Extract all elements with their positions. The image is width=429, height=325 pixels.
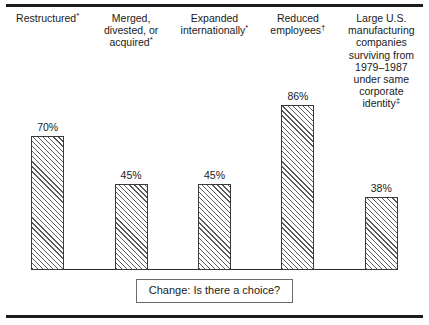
bar-group-large-us-manufacturing: 38% <box>365 182 398 270</box>
bottom-rule <box>6 315 423 318</box>
plot-area: 70% 45% 45% 86% 38% <box>6 20 423 270</box>
top-rule <box>6 4 423 7</box>
bar-restructured <box>31 136 64 270</box>
bar-group-expanded-internationally: 45% <box>198 169 231 270</box>
caption-row: Change: Is there a choice? <box>0 279 429 303</box>
bar-large-us-manufacturing <box>365 197 398 270</box>
bar-value-label: 38% <box>371 182 392 194</box>
bar-expanded-internationally <box>198 184 231 270</box>
bar-reduced-employees <box>281 105 314 270</box>
bar-value-label: 70% <box>37 121 58 133</box>
footnote-marker: * <box>76 11 79 20</box>
bar-group-reduced-employees: 86% <box>281 90 314 270</box>
bar-value-label: 86% <box>287 90 308 102</box>
bar-group-merged-divested-acquired: 45% <box>115 169 148 270</box>
bar-merged-divested-acquired <box>115 184 148 270</box>
figure-container: Restructured* Merged,divested, oracquire… <box>0 0 429 325</box>
bar-value-label: 45% <box>204 169 225 181</box>
caption-box: Change: Is there a choice? <box>136 279 293 303</box>
bar-group-restructured: 70% <box>31 121 64 270</box>
bar-value-label: 45% <box>121 169 142 181</box>
